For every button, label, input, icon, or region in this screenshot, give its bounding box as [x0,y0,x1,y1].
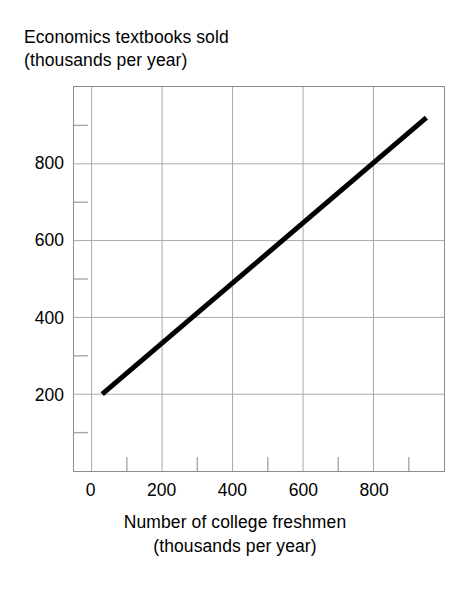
x-axis-title: Number of college freshmen (thousands pe… [0,510,470,558]
y-axis-title-line-2: (thousands per year) [24,49,229,72]
x-tick-label: 200 [147,480,176,501]
y-axis-title: Economics textbooks sold (thousands per … [24,26,229,72]
x-tick-label: 0 [86,480,96,501]
x-axis-tick-labels: 0 200 400 600 800 [0,480,470,506]
y-tick-label: 600 [35,230,64,251]
data-line [102,118,426,394]
y-tick-label: 200 [35,384,64,405]
x-axis-title-line-1: Number of college freshmen [0,510,470,534]
gridlines [74,87,444,471]
x-tick-label: 600 [289,480,318,501]
data-line-series [102,118,426,394]
x-tick-label: 800 [359,480,388,501]
x-tick-label: 400 [218,480,247,501]
y-tick-label: 800 [35,153,64,174]
y-axis-title-line-1: Economics textbooks sold [24,26,229,49]
y-axis-tick-labels: 200 400 600 800 [0,86,64,472]
x-axis-title-line-2: (thousands per year) [0,534,470,558]
chart-figure: Economics textbooks sold (thousands per … [0,0,470,595]
y-tick-label: 400 [35,307,64,328]
plot-canvas [74,87,444,471]
plot-area [73,86,445,472]
